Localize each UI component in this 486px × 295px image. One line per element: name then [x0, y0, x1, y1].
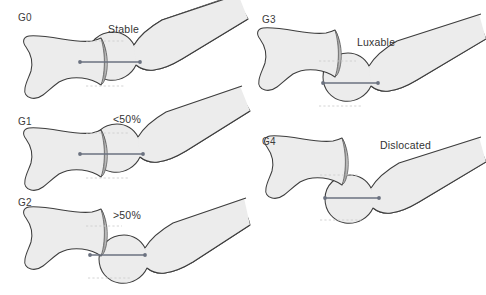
status-label-g1: <50%	[113, 113, 141, 125]
status-label-g0: Stable	[108, 23, 139, 35]
diagram-canvas: G0 Stable G1 <50%	[0, 0, 486, 295]
measure-endpoint-right-g0	[138, 60, 142, 64]
grade-label-g0: G0	[18, 12, 32, 23]
measure-endpoint-right-g3	[376, 81, 380, 85]
measure-endpoint-left-g2	[88, 253, 92, 257]
femur-shaft-fill-g3	[369, 14, 486, 91]
status-label-g3: Luxable	[357, 36, 395, 48]
panel-g1	[0, 92, 250, 192]
grade-label-g2: G2	[18, 197, 32, 208]
femur-shaft-fill-g1	[138, 86, 250, 162]
status-label-g2: >50%	[113, 209, 141, 221]
grade-label-g4: G4	[262, 136, 276, 147]
measure-endpoint-right-g4	[377, 196, 381, 200]
panel-g2	[0, 186, 250, 294]
panel-g0	[0, 0, 250, 100]
status-label-g4: Dislocated	[380, 139, 431, 151]
panel-g3	[243, 0, 486, 118]
measure-endpoint-left-g4	[323, 196, 327, 200]
pelvis-bone-g1	[24, 128, 107, 191]
panel-g4	[243, 120, 486, 240]
grade-label-g1: G1	[18, 116, 32, 127]
pelvis-bone-g0	[24, 36, 107, 99]
measure-endpoint-right-g2	[143, 253, 147, 257]
pelvis-bone-g2	[24, 207, 107, 270]
grade-label-g3: G3	[262, 14, 276, 25]
measure-endpoint-left-g0	[78, 60, 82, 64]
measure-endpoint-left-g3	[321, 81, 325, 85]
measure-endpoint-right-g1	[141, 152, 145, 156]
measure-endpoint-left-g1	[78, 152, 82, 156]
